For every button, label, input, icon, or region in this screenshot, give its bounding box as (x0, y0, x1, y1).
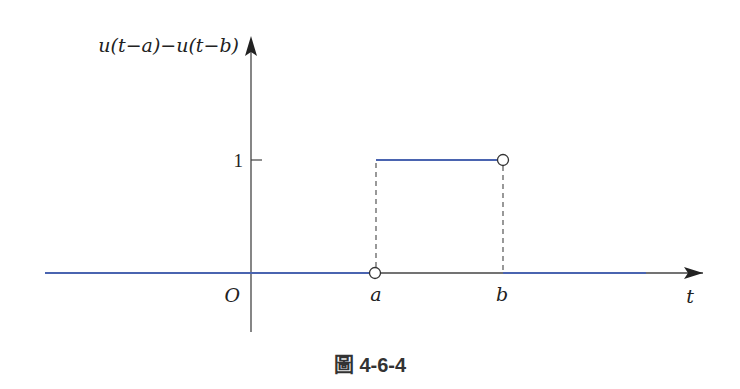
tick-a-label: a (370, 283, 381, 305)
open-circle-at-a (370, 268, 381, 279)
figure-caption: 圖 4-6-4 (334, 354, 407, 376)
y-axis-label: u(t−a)−u(t−b) (98, 34, 239, 56)
y-tick-label-1: 1 (234, 150, 244, 171)
tick-b-label: b (496, 283, 508, 305)
step-function-diagram: u(t−a)−u(t−b) 1 O a b t 圖 4-6-4 (0, 0, 740, 389)
x-axis-label: t (686, 285, 694, 307)
origin-label: O (224, 284, 240, 306)
open-circle-at-b-top (498, 155, 509, 166)
